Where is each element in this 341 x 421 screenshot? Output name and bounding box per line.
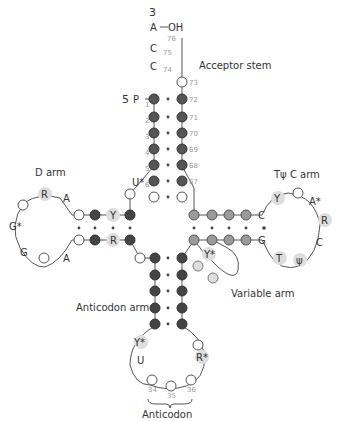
svg-text:C: C bbox=[316, 237, 323, 248]
svg-text:73: 73 bbox=[189, 79, 198, 87]
svg-text:68: 68 bbox=[189, 162, 198, 170]
svg-text:70: 70 bbox=[189, 130, 198, 138]
trna-diagram: 3 A OH 76 C 75 C 74 Acceptor stem 5 P 1 … bbox=[0, 0, 341, 421]
svg-text:G*: G* bbox=[9, 221, 22, 232]
svg-text:74: 74 bbox=[163, 66, 172, 74]
svg-text:G: G bbox=[258, 235, 266, 246]
svg-text:6: 6 bbox=[145, 181, 150, 189]
phosphate-label: P bbox=[133, 94, 139, 105]
anticodon-arm-label: Anticodon arm bbox=[76, 302, 149, 313]
svg-text:76: 76 bbox=[167, 35, 176, 43]
svg-text:C: C bbox=[258, 210, 265, 221]
svg-text:69: 69 bbox=[189, 146, 198, 154]
svg-text:A: A bbox=[63, 193, 70, 204]
svg-text:U: U bbox=[137, 355, 144, 366]
svg-text:Y*: Y* bbox=[203, 249, 215, 260]
svg-text:71: 71 bbox=[189, 114, 198, 122]
svg-text:34: 34 bbox=[148, 386, 157, 394]
anticodon-label: Anticodon bbox=[142, 409, 192, 420]
acceptor-base-75: C bbox=[150, 43, 157, 54]
acceptor-base-74: C bbox=[150, 61, 157, 72]
svg-text:R: R bbox=[321, 215, 328, 226]
svg-text:G: G bbox=[20, 247, 28, 258]
variable-arm-label: Variable arm bbox=[231, 288, 294, 299]
svg-text:R: R bbox=[41, 189, 48, 200]
acceptor-stem-nucleotides bbox=[149, 77, 187, 202]
d-arm-label: D arm bbox=[35, 167, 66, 178]
svg-text:75: 75 bbox=[163, 49, 172, 57]
svg-text:4: 4 bbox=[145, 149, 150, 157]
svg-text:2: 2 bbox=[145, 117, 149, 125]
svg-text:Y: Y bbox=[109, 210, 117, 221]
svg-text:3: 3 bbox=[145, 133, 149, 141]
svg-text:Y*: Y* bbox=[133, 337, 145, 348]
acceptor-base-76: A bbox=[150, 22, 157, 33]
svg-text:5: 5 bbox=[145, 165, 149, 173]
anticodon-brace bbox=[148, 399, 192, 408]
oh-label: OH bbox=[168, 22, 183, 33]
tpsic-arm-label: Tψ C arm bbox=[273, 169, 320, 180]
svg-text:R*: R* bbox=[196, 352, 208, 363]
five-prime-label: 5 bbox=[122, 93, 129, 106]
svg-text:A: A bbox=[63, 253, 70, 264]
svg-text:35: 35 bbox=[167, 392, 176, 400]
svg-text:A*: A* bbox=[309, 196, 321, 207]
svg-text:1: 1 bbox=[145, 101, 149, 109]
svg-text:36: 36 bbox=[187, 386, 196, 394]
acceptor-labels: 3 A OH 76 C 75 C 74 Acceptor stem 5 P 1 … bbox=[122, 6, 272, 189]
svg-text:ψ: ψ bbox=[296, 255, 303, 266]
acceptor-stem-label: Acceptor stem bbox=[199, 60, 272, 71]
svg-text:R: R bbox=[110, 235, 117, 246]
svg-text:67: 67 bbox=[189, 178, 198, 186]
svg-text:72: 72 bbox=[189, 96, 198, 104]
three-prime-label: 3 bbox=[149, 6, 156, 19]
u-star-label: U* bbox=[132, 177, 144, 188]
svg-text:T: T bbox=[275, 253, 283, 264]
anticodon-arm: Anticodon arm Y* U R* 34 35 36 Anticodon bbox=[76, 253, 209, 420]
backbone-lines bbox=[15, 27, 320, 389]
svg-text:Y: Y bbox=[273, 193, 281, 204]
